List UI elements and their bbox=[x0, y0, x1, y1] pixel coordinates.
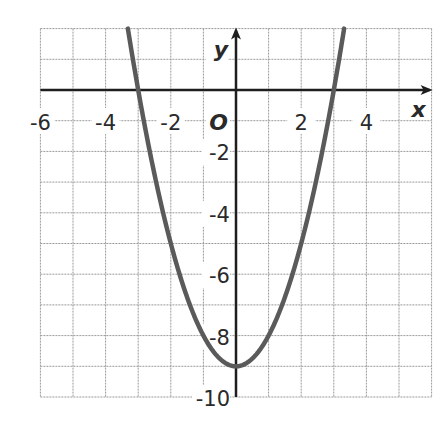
x-tick-label: 2 bbox=[295, 111, 308, 135]
x-tick-label: 4 bbox=[360, 111, 373, 135]
y-tick-label: -4 bbox=[209, 203, 230, 227]
x-tick-label: -2 bbox=[160, 111, 181, 135]
y-tick-label: -6 bbox=[209, 264, 230, 288]
y-tick-label: -2 bbox=[209, 141, 230, 165]
parabola-chart: -6-4-224-2-4-6-8-10Oxy bbox=[0, 0, 447, 422]
x-tick-label: -4 bbox=[95, 111, 116, 135]
x-axis-label: x bbox=[410, 97, 426, 122]
y-axis-label: y bbox=[214, 37, 230, 62]
origin-label: O bbox=[209, 110, 228, 135]
x-tick-label: -6 bbox=[30, 111, 51, 135]
y-tick-label: -10 bbox=[196, 387, 230, 411]
